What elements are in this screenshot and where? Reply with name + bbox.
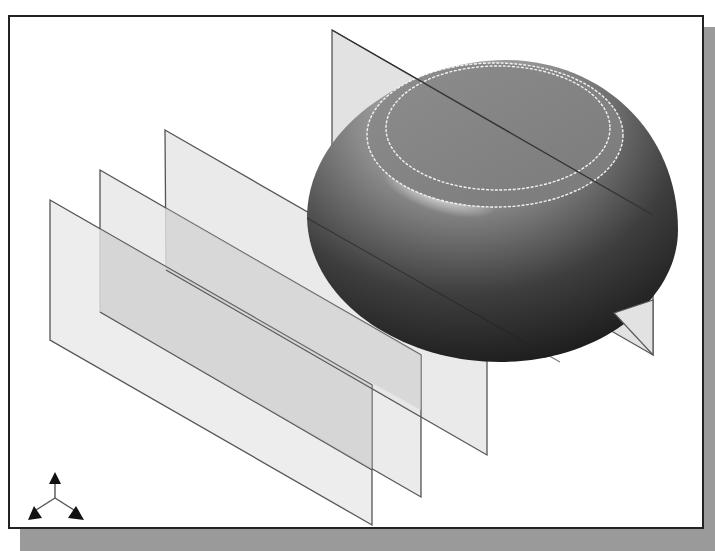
- model-canvas[interactable]: [0, 0, 715, 551]
- view-orientation-triad-icon[interactable]: [22, 468, 92, 528]
